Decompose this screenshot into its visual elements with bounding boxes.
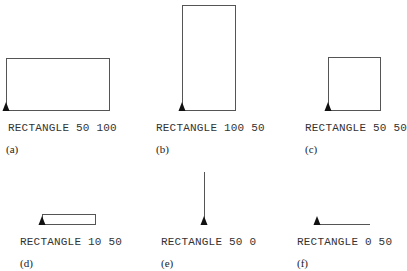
command-label: RECTANGLE 0 50: [297, 236, 392, 248]
command-label: RECTANGLE 100 50: [156, 122, 265, 134]
panel-f: [314, 216, 371, 225]
turtle-icon: [325, 102, 332, 111]
panel-caption: (b): [156, 143, 169, 155]
rectangle-shape: [183, 6, 236, 111]
rectangle-shape: [7, 59, 110, 111]
panel-caption: (a): [6, 143, 18, 155]
panel-c: [325, 58, 381, 112]
command-label: RECTANGLE 50 100: [8, 122, 117, 134]
command-label: RECTANGLE 50 50: [305, 122, 407, 134]
panel-caption: (c): [305, 143, 317, 155]
turtle-icon: [201, 216, 208, 225]
panel-d: [39, 215, 96, 226]
panel-caption: (d): [20, 257, 33, 269]
panel-e: [201, 172, 208, 225]
command-label: RECTANGLE 50 0: [161, 236, 256, 248]
turtle-icon: [39, 216, 46, 225]
panel-a: [3, 59, 110, 112]
panel-b: [179, 6, 236, 112]
turtle-icon: [314, 216, 321, 225]
command-label: RECTANGLE 10 50: [20, 236, 122, 248]
turtle-icon: [3, 102, 10, 111]
rectangle-shape: [43, 215, 96, 225]
rectangle-shape: [329, 58, 381, 111]
panel-caption: (e): [161, 257, 173, 269]
turtle-icon: [179, 102, 186, 111]
panel-caption: (f): [297, 257, 308, 269]
